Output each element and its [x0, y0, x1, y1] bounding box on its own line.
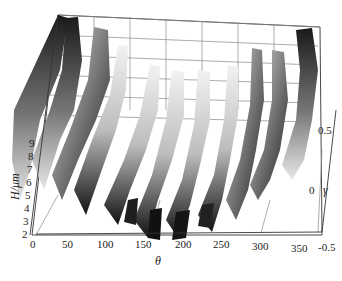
svg-text:6: 6 [26, 176, 32, 188]
svg-text:9: 9 [29, 137, 35, 149]
svg-text:200: 200 [175, 238, 192, 250]
svg-text:0.5: 0.5 [318, 124, 332, 136]
x-axis-ticks: 0 50 100 150 200 250 300 350 [30, 238, 308, 254]
svg-text:300: 300 [252, 240, 269, 252]
svg-text:8: 8 [28, 150, 34, 162]
svg-text:0: 0 [309, 184, 315, 196]
x-axis-label: θ [155, 254, 161, 268]
svg-text:5: 5 [25, 189, 31, 201]
svg-text:0: 0 [30, 238, 36, 250]
svg-text:7: 7 [27, 163, 33, 175]
svg-text:350: 350 [291, 242, 308, 254]
surface [12, 15, 318, 240]
svg-text:3: 3 [23, 215, 29, 227]
z-axis-label: H/μm [8, 173, 22, 201]
svg-text:150: 150 [135, 238, 152, 250]
svg-text:100: 100 [97, 238, 114, 250]
svg-text:250: 250 [213, 238, 230, 250]
surface-plot: 2 3 4 5 6 7 8 9 H/μm 0 50 100 150 200 25… [0, 0, 342, 281]
svg-text:-0.5: -0.5 [318, 241, 336, 253]
svg-text:50: 50 [62, 238, 74, 250]
y-axis-label: γ [323, 183, 328, 197]
svg-text:4: 4 [24, 202, 30, 214]
svg-text:2: 2 [22, 228, 28, 240]
